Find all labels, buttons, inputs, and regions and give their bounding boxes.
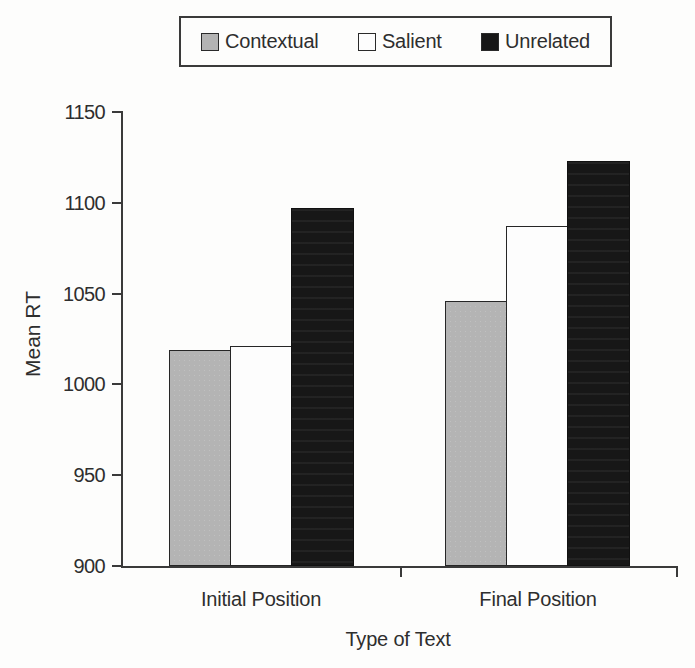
- y-axis-title: Mean RT: [21, 291, 45, 377]
- y-tick-label: 900: [48, 556, 105, 576]
- x-tick-mark: [400, 568, 402, 577]
- x-axis-title: Type of Text: [345, 628, 450, 651]
- legend-item-contextual: Contextual: [201, 30, 319, 53]
- legend-label: Salient: [382, 30, 442, 53]
- bar-contextual-final-position: [445, 301, 508, 566]
- legend-item-unrelated: Unrelated: [481, 30, 590, 53]
- y-tick-mark: [112, 111, 123, 113]
- y-tick-mark: [112, 202, 123, 204]
- legend-label: Contextual: [225, 30, 319, 53]
- bar-unrelated-initial-position: [291, 208, 354, 566]
- x-category-label-final-position: Final Position: [479, 588, 596, 611]
- legend-swatch-salient: [358, 33, 376, 51]
- y-tick-mark: [112, 565, 123, 567]
- legend: ContextualSalientUnrelated: [179, 16, 612, 67]
- legend-swatch-contextual: [201, 33, 219, 51]
- bar-contextual-initial-position: [169, 350, 232, 566]
- legend-swatch-unrelated: [481, 33, 499, 51]
- x-tick-mark: [676, 568, 678, 577]
- x-category-label-initial-position: Initial Position: [201, 588, 321, 611]
- y-tick-mark: [112, 293, 123, 295]
- legend-item-salient: Salient: [358, 30, 442, 53]
- bar-unrelated-final-position: [567, 161, 630, 566]
- legend-label: Unrelated: [505, 30, 590, 53]
- bar-salient-initial-position: [230, 346, 293, 566]
- bar-chart-figure: ContextualSalientUnrelated Mean RT 90095…: [0, 0, 695, 668]
- y-tick-label: 950: [48, 465, 105, 485]
- y-tick-label: 1050: [48, 284, 105, 304]
- y-tick-label: 1000: [48, 374, 105, 394]
- y-tick-label: 1100: [48, 193, 105, 213]
- y-tick-mark: [112, 383, 123, 385]
- y-tick-mark: [112, 474, 123, 476]
- plot-area: 9009501000105011001150Initial PositionFi…: [121, 112, 678, 568]
- y-tick-label: 1150: [48, 102, 105, 122]
- bar-salient-final-position: [506, 226, 569, 566]
